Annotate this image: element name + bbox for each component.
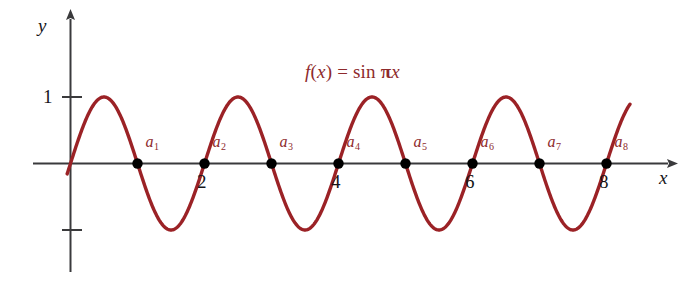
point-label-subscript: 2 (221, 141, 226, 152)
point-label-a3: a3 (280, 134, 293, 150)
point-label-a2: a2 (213, 134, 226, 150)
point-label-a1: a1 (146, 134, 159, 150)
zero-crossing-dot-a3 (266, 158, 276, 168)
point-label-base: a (347, 133, 355, 150)
x-tick-label-4: 4 (331, 172, 341, 191)
point-label-a5: a5 (414, 134, 427, 150)
point-label-subscript: 5 (422, 141, 427, 152)
zero-crossing-dot-a8 (601, 158, 611, 168)
zero-crossing-dot-a2 (199, 158, 209, 168)
point-label-base: a (615, 133, 623, 150)
point-label-base: a (146, 133, 154, 150)
function-label-variable: x (317, 61, 326, 82)
point-label-subscript: 7 (556, 141, 561, 152)
point-label-a4: a4 (347, 134, 360, 150)
function-label-pi: π (381, 61, 392, 82)
zero-crossing-dot-a4 (333, 158, 343, 168)
y-tick-label-1: 1 (43, 87, 53, 106)
point-label-a6: a6 (481, 134, 494, 150)
point-label-base: a (548, 133, 556, 150)
function-label-close-paren: ) (326, 61, 333, 82)
x-axis-label: x (659, 168, 667, 187)
point-label-a8: a8 (615, 134, 628, 150)
x-tick-label-8: 8 (599, 172, 609, 191)
point-label-base: a (213, 133, 221, 150)
point-label-base: a (280, 133, 288, 150)
x-tick-label-2: 2 (197, 172, 207, 191)
function-label-equals: = (337, 61, 348, 82)
sine-function-figure: y x 1 2 4 6 8 f(x) = sin πx a1a2a3a4a5a6… (0, 0, 692, 283)
point-label-subscript: 4 (355, 141, 360, 152)
point-label-base: a (414, 133, 422, 150)
point-label-subscript: 6 (489, 141, 494, 152)
zero-crossing-dot-a7 (534, 158, 544, 168)
zero-crossing-dot-a5 (400, 158, 410, 168)
x-tick-label-6: 6 (465, 172, 475, 191)
point-label-a7: a7 (548, 134, 561, 150)
function-label-sin: sin (353, 61, 376, 82)
function-label: f(x) = sin πx (305, 62, 400, 81)
zero-crossing-dot-a6 (467, 158, 477, 168)
point-label-subscript: 8 (623, 141, 628, 152)
point-label-subscript: 3 (288, 141, 293, 152)
point-label-subscript: 1 (154, 141, 159, 152)
y-axis-label: y (38, 16, 46, 35)
zero-crossing-dot-a1 (132, 158, 142, 168)
point-label-base: a (481, 133, 489, 150)
function-label-arg: x (391, 61, 400, 82)
